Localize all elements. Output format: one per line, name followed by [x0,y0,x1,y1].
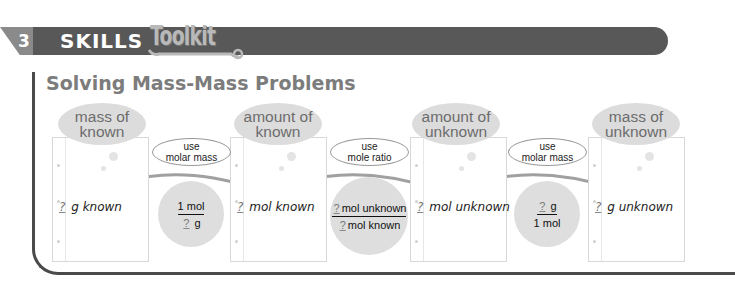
step-heading-amount-known: amount ofknown [234,103,322,145]
step-value: ? g unknown [593,200,673,214]
denominator: ? g [181,215,200,229]
step-value: ? g known [57,200,122,214]
step-card-mass-unknown: ? g unknown [588,137,685,262]
step-heading-mass-unknown: mass ofunknown [592,103,680,145]
conversion-factor-2: ?mol unknown ?mol known [330,177,408,255]
step-card-amount-unknown: ? mol unknown [410,137,507,262]
step-card-amount-known: ? mol known [230,137,327,262]
step-value: ? mol unknown [415,200,510,214]
step-heading-amount-unknown: amount ofunknown [412,103,500,145]
numerator: ? g [537,200,556,215]
step-card-mass-known: ? g known [52,137,149,262]
conversion-factor-1: 1 mol ? g [158,181,224,247]
numerator: 1 mol [178,200,205,215]
step-value: ? mol known [235,200,315,214]
step-heading-mass-known: mass ofknown [58,103,146,145]
conversion-label-molar-mass-1: usemolar mass [152,138,231,166]
conversion-label-molar-mass-2: usemolar mass [508,138,587,166]
numerator: ?mol unknown [332,202,407,217]
denominator: 1 mol [534,215,561,229]
denominator: ?mol known [338,217,401,231]
conversion-factor-3: ? g 1 mol [514,181,580,247]
conversion-label-mole-ratio: usemole ratio [330,138,409,166]
